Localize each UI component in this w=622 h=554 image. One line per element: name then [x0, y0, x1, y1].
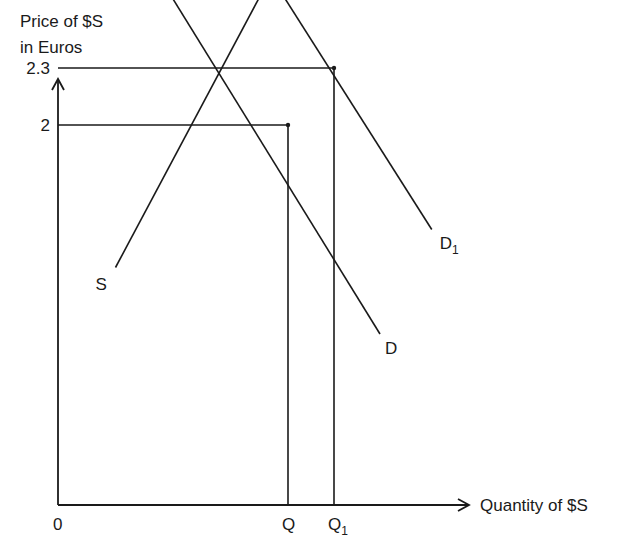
curve-label-s-start: S [96, 275, 107, 294]
equilibrium-point [332, 66, 336, 70]
curve-label-d1-end: D1 [440, 234, 459, 257]
x-tick-label: Q1 [328, 515, 348, 538]
y-tick-label: 2 [41, 116, 50, 135]
curve-label-d-end: D [385, 339, 397, 358]
equilibrium-point [286, 123, 290, 127]
origin-label: 0 [53, 515, 62, 534]
x-tick-label: Q [282, 515, 295, 534]
y-axis-label-line-2: in Euros [20, 38, 82, 57]
y-axis-label: Price of $S in Euros [20, 12, 103, 57]
x-axis-label: Quantity of $S [480, 496, 588, 515]
y-axis-label-line-1: Price of $S [20, 12, 103, 31]
curve-s [116, 0, 369, 268]
curve-d1 [130, 0, 432, 230]
y-tick-label: 2.3 [26, 59, 50, 78]
chart: Price of $S in Euros Quantity of $S 0 2.… [0, 0, 622, 554]
curve-d [98, 0, 380, 334]
